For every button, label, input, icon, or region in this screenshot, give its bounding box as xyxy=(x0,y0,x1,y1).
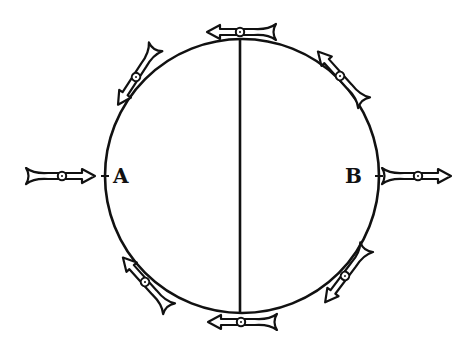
needle-lower-right-icon xyxy=(319,242,373,307)
label-a: A xyxy=(113,166,129,186)
needle-bottom-icon xyxy=(208,314,277,330)
diagram-canvas: A B xyxy=(0,0,474,349)
needles-group xyxy=(26,24,451,330)
label-b: B xyxy=(345,166,362,186)
needle-top-icon xyxy=(207,24,276,40)
needle-lower-left-icon xyxy=(117,252,175,314)
needle-upper-left-icon xyxy=(111,42,162,109)
diagram-svg xyxy=(0,0,474,349)
needle-upper-right-icon xyxy=(312,46,370,108)
needle-left-a-icon xyxy=(26,168,95,184)
needle-right-b-icon xyxy=(382,168,451,184)
